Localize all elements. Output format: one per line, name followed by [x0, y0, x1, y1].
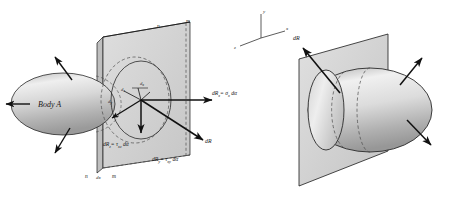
- axes-triad: y x z: [233, 9, 289, 50]
- label-m-bottom: m: [112, 173, 116, 179]
- label-n-top: n: [157, 23, 160, 29]
- label-dR-left: dR: [205, 138, 212, 144]
- label-dRy: dRy= τxy dα: [152, 156, 179, 164]
- label-dRx: dRx= σx dα: [212, 90, 238, 98]
- label-m-top: m: [186, 18, 190, 24]
- stress-element-figure: Body A n m n m dx: [0, 0, 454, 204]
- axis-x-line: [261, 31, 285, 38]
- dz-sub: z: [122, 88, 125, 93]
- body-a-label: Body A: [38, 100, 61, 109]
- dRx-tail: dα: [230, 90, 238, 96]
- body-right: [308, 68, 432, 152]
- left-diagram: Body A n m n m dx: [6, 18, 238, 180]
- dRz-tail: dα: [122, 141, 130, 147]
- dRx-eq: = σ: [220, 90, 228, 96]
- axis-label-y: y: [262, 9, 266, 14]
- label-dR-right: dR: [293, 35, 300, 41]
- axis-z-line: [240, 38, 261, 46]
- dRy-tail: dα: [171, 156, 179, 162]
- dx-sub: x: [141, 82, 144, 87]
- label-n-bottom: n: [85, 173, 88, 179]
- body-cut-cap: [308, 70, 344, 150]
- dy-sub: y: [109, 100, 112, 105]
- right-diagram: y x z dR: [233, 9, 432, 186]
- axis-label-z: z: [233, 45, 236, 50]
- figure-canvas: Body A n m n m dx: [0, 0, 454, 204]
- axis-label-x: x: [285, 26, 289, 31]
- label-dx-thickness: dx: [96, 175, 102, 180]
